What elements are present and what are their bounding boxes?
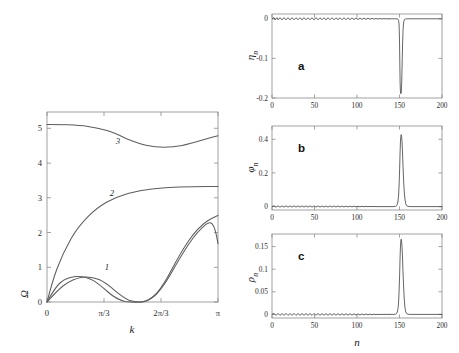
panel-b-x-ticklabels: 0 50 100 150 200 <box>270 213 448 222</box>
panel-b-frame <box>272 126 442 210</box>
dispersion-curve-1 <box>47 223 218 302</box>
panel-c-x-ticks <box>272 234 442 318</box>
dispersion-y-ticklabels: 0 1 2 3 4 5 <box>38 123 43 307</box>
panel-b-ylabel-symbol: φ <box>244 166 256 172</box>
panel-c-ylabel: ρn <box>244 248 259 308</box>
panel-b-xtick-200: 200 <box>436 213 447 222</box>
panel-b-letter: b <box>298 142 305 154</box>
dispersion-plot: 0 1 2 3 4 5 0 π/3 2π/3 π k 1 <box>0 98 232 353</box>
panel-b-y-ticklabels: 0 0.2 0.4 <box>259 135 269 211</box>
panel-b-xtick-150: 150 <box>394 213 405 222</box>
panel-a-ytick-2: -0.2 <box>256 94 268 103</box>
panel-a-letter: a <box>298 60 305 72</box>
panel-a-x-ticks <box>272 14 442 98</box>
panel-c-x-ticklabels: 0 50 100 150 200 <box>270 321 448 330</box>
panel-a-xtick-50: 50 <box>311 101 319 110</box>
dispersion-curve-label-1: 1 <box>105 262 109 272</box>
ytick-4: 4 <box>38 158 43 168</box>
panel-b-noise-baseline <box>272 206 390 207</box>
panel-c-ylabel-symbol: ρ <box>244 277 256 282</box>
figure-root: Ω <box>0 0 459 353</box>
panel-c-plot: 0 0.05 0.1 0.15 0 50 100 150 200 n c <box>230 226 459 353</box>
panel-a-frame <box>272 14 442 98</box>
panel-a-xtick-100: 100 <box>351 101 362 110</box>
panel-a-ytick-0: 0 <box>264 14 268 23</box>
panel-c-xlabel: n <box>354 336 360 348</box>
panel-a: ηn <box>230 0 459 115</box>
panel-b-plot: 0 0.2 0.4 0 50 100 150 200 b <box>230 112 459 227</box>
panel-a-xtick-150: 150 <box>394 101 405 110</box>
dispersion-curve-label-2: 2 <box>110 188 115 198</box>
panel-b-xtick-0: 0 <box>270 213 274 222</box>
panel-c: ρn <box>230 226 459 353</box>
panel-c-xtick-0: 0 <box>270 321 274 330</box>
xtick-pi: π <box>216 308 221 318</box>
ytick-0: 0 <box>38 297 42 307</box>
panel-c-peak-curve <box>390 239 442 314</box>
panel-a-dip-curve <box>390 19 442 94</box>
xtick-0: 0 <box>45 308 49 318</box>
panel-c-xtick-200: 200 <box>436 321 447 330</box>
panel-b: φn <box>230 112 459 227</box>
panel-a-ylabel: ηn <box>244 26 259 86</box>
panel-a-x-ticklabels: 0 50 100 150 200 <box>270 101 448 110</box>
dispersion-panel: Ω <box>0 98 232 353</box>
dispersion-ylabel: Ω <box>18 280 30 308</box>
ytick-1: 1 <box>38 262 42 272</box>
panel-a-xtick-200: 200 <box>436 101 447 110</box>
panel-c-xtick-100: 100 <box>351 321 362 330</box>
dispersion-xlabel: k <box>130 323 136 335</box>
dispersion-curve-1b <box>47 215 218 302</box>
panel-b-x-ticks <box>272 126 442 210</box>
panel-a-plot: 0 -0.1 -0.2 0 50 100 150 200 a <box>230 0 459 115</box>
panel-b-ytick-02: 0.2 <box>259 169 269 178</box>
dispersion-curve-label-3: 3 <box>115 136 120 146</box>
panel-c-frame <box>272 234 442 318</box>
panel-b-peak-curve <box>390 135 442 207</box>
panel-c-ytick-0: 0 <box>264 310 268 319</box>
panel-b-ylabel-subscript: n <box>251 163 260 167</box>
xtick-pi-3: π/3 <box>98 308 109 318</box>
panel-a-xtick-0: 0 <box>270 101 274 110</box>
panel-a-ylabel-symbol: η <box>244 55 256 60</box>
panel-b-ytick-0: 0 <box>264 202 268 211</box>
panel-b-xtick-100: 100 <box>351 213 362 222</box>
panel-a-noise-baseline <box>272 18 390 20</box>
panel-b-ytick-04: 0.4 <box>259 135 269 144</box>
panel-c-ylabel-subscript: n <box>251 273 260 277</box>
panel-c-letter: c <box>298 250 305 262</box>
dispersion-curve-3 <box>47 125 218 148</box>
dispersion-y-ticks <box>47 128 218 302</box>
panel-b-ylabel: φn <box>244 138 259 198</box>
panel-c-ytick-01: 0.1 <box>259 265 269 274</box>
panel-b-xtick-50: 50 <box>311 213 319 222</box>
ytick-5: 5 <box>38 123 42 133</box>
panel-c-xtick-150: 150 <box>394 321 405 330</box>
dispersion-x-ticklabels: 0 π/3 2π/3 π <box>45 308 221 318</box>
panel-a-y-ticks <box>272 19 442 98</box>
panel-c-xtick-50: 50 <box>311 321 319 330</box>
xtick-2pi-3: 2π/3 <box>153 308 168 318</box>
ytick-3: 3 <box>38 193 42 203</box>
panel-c-noise-baseline <box>272 313 390 315</box>
panel-a-ylabel-subscript: n <box>251 51 260 55</box>
dispersion-curve-2 <box>47 186 218 302</box>
ytick-2: 2 <box>38 228 42 238</box>
